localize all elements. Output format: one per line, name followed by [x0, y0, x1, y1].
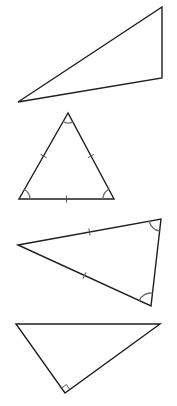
- equal-angle-arc: [63, 122, 73, 123]
- scalene-triangle: [18, 7, 162, 102]
- equal-angle-arc: [24, 189, 30, 199]
- triangle-outline: [18, 7, 162, 102]
- equal-side-tick-mark: [89, 229, 90, 236]
- triangle-classification-diagram: [0, 0, 177, 406]
- equal-angle-arc: [149, 221, 159, 231]
- triangle-outline: [19, 113, 114, 199]
- right-triangle: [16, 324, 160, 393]
- equal-angle-arc: [139, 293, 152, 301]
- equilateral-triangle: [19, 113, 114, 203]
- equal-angle-arc: [103, 189, 109, 199]
- triangle-outline: [16, 324, 160, 393]
- isosceles-triangle: [18, 219, 161, 306]
